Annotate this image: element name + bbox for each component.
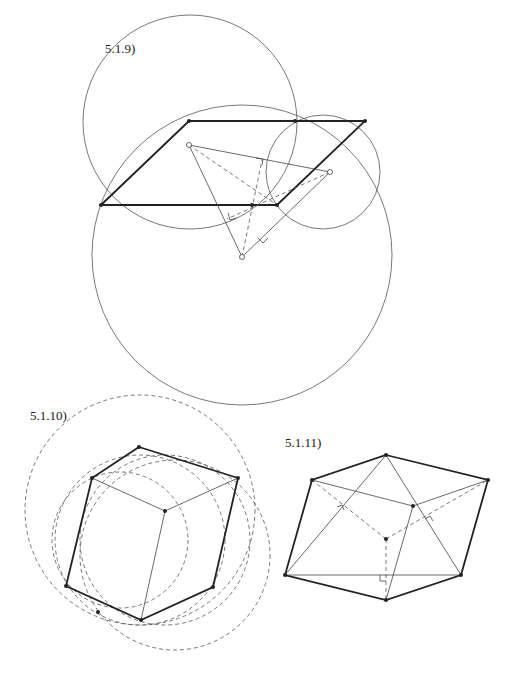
triangle-vertex bbox=[187, 143, 192, 148]
circle-3 bbox=[266, 115, 380, 229]
extra-point bbox=[96, 610, 100, 614]
vertex-point bbox=[363, 119, 367, 123]
spoke bbox=[92, 478, 165, 511]
edge bbox=[386, 455, 461, 575]
dashed-line bbox=[386, 480, 488, 539]
inner-point bbox=[411, 504, 415, 508]
spoke bbox=[165, 478, 238, 511]
dashed-altitude bbox=[227, 172, 330, 219]
vertex-point bbox=[275, 203, 279, 207]
dashed-circle bbox=[52, 472, 188, 608]
intersection-point bbox=[293, 119, 297, 123]
edge bbox=[312, 480, 413, 506]
right-angle-mark bbox=[425, 516, 433, 521]
figure-label: 5.1.11) bbox=[285, 435, 321, 450]
vertex-point bbox=[384, 453, 388, 457]
right-angle-mark bbox=[256, 158, 263, 165]
figure-5-1-10: 5.1.10) bbox=[25, 395, 270, 650]
center-point bbox=[384, 537, 388, 541]
dashed-altitude bbox=[189, 145, 277, 205]
parallelogram bbox=[101, 121, 365, 205]
vertex-point bbox=[486, 478, 490, 482]
vertex-point bbox=[310, 478, 314, 482]
vertex-point bbox=[99, 203, 103, 207]
dashed-altitude bbox=[242, 160, 262, 257]
triangle bbox=[189, 145, 330, 257]
vertex-point bbox=[90, 476, 94, 480]
hexagon bbox=[285, 455, 488, 600]
triangle-vertex bbox=[328, 170, 333, 175]
edge bbox=[386, 506, 413, 600]
vertex-point bbox=[137, 445, 141, 449]
triangle-vertex bbox=[240, 255, 245, 260]
figure-5-1-9: 5.1.9) bbox=[83, 15, 392, 405]
hexagon bbox=[66, 447, 238, 620]
dashed-circle bbox=[25, 395, 255, 625]
vertex-point bbox=[187, 119, 191, 123]
vertex-point bbox=[459, 573, 463, 577]
dashed-circle bbox=[80, 460, 270, 650]
vertex-point bbox=[64, 584, 68, 588]
geometry-diagram: 5.1.9) 5.1.10) bbox=[0, 0, 513, 692]
vertex-point bbox=[139, 618, 143, 622]
spoke bbox=[141, 511, 165, 620]
vertex-point bbox=[283, 573, 287, 577]
vertex-point bbox=[384, 598, 388, 602]
vertex-point bbox=[236, 476, 240, 480]
center-point bbox=[163, 509, 167, 513]
center-point bbox=[250, 203, 254, 207]
figure-label: 5.1.9) bbox=[105, 41, 135, 56]
edge bbox=[413, 480, 488, 506]
figure-5-1-11: 5.1.11) bbox=[283, 435, 490, 602]
right-angle-mark bbox=[380, 575, 386, 581]
vertex-point bbox=[211, 585, 215, 589]
dashed-circle bbox=[55, 455, 225, 625]
figure-label: 5.1.10) bbox=[30, 408, 67, 423]
